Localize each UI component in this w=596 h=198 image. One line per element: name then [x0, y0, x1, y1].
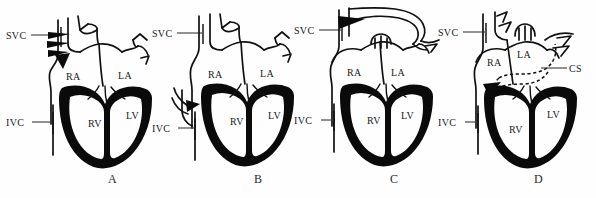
label-ra-c: RA	[347, 67, 362, 78]
label-la-d: LA	[517, 49, 531, 60]
label-svc-c: SVC	[294, 25, 314, 36]
label-rv-d: RV	[509, 124, 523, 135]
label-la-b: LA	[260, 68, 274, 79]
label-la-a: LA	[118, 70, 132, 81]
label-rv-a: RV	[88, 118, 102, 129]
panel-letter-d: D	[534, 172, 543, 186]
label-ivc-d: IVC	[438, 117, 456, 128]
label-lv-d: LV	[547, 109, 560, 120]
label-ivc-a: IVC	[6, 117, 24, 128]
label-ra-d: RA	[487, 57, 502, 68]
label-cs-d: CS	[569, 63, 582, 74]
cardiac-diagram-figure: RA LA RV LV SVC IVC A	[0, 0, 596, 198]
label-ivc-b: IVC	[152, 123, 170, 134]
label-svc-d: SVC	[438, 27, 458, 38]
label-rv-b: RV	[230, 116, 244, 127]
panel-letter-c: C	[390, 172, 398, 186]
figure-canvas: RA LA RV LV SVC IVC A	[0, 0, 596, 198]
label-lv-a: LV	[126, 110, 139, 121]
label-lv-b: LV	[268, 110, 281, 121]
label-ra-b: RA	[208, 69, 223, 80]
panel-letter-a: A	[108, 172, 117, 186]
label-svc-a: SVC	[6, 30, 26, 41]
label-ivc-c: IVC	[294, 115, 312, 126]
label-la-c: LA	[391, 67, 405, 78]
label-rv-c: RV	[367, 115, 381, 126]
label-lv-c: LV	[401, 110, 414, 121]
panel-letter-b: B	[254, 172, 262, 186]
label-ra-a: RA	[66, 71, 81, 82]
label-svc-b: SVC	[152, 28, 172, 39]
